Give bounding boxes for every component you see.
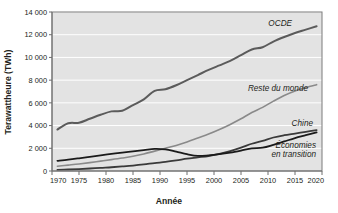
series-label-3: Économies <box>275 140 316 150</box>
x-axis-title: Année <box>156 196 182 206</box>
line-chart: 02 0004 0006 0008 00010 00012 00014 000 … <box>0 0 338 213</box>
y-tick-label: 0 <box>43 167 47 176</box>
y-tick-label: 2 000 <box>29 144 48 153</box>
y-tick-label: 6 000 <box>29 99 48 108</box>
series-label-4: en transition <box>271 150 316 159</box>
x-tick-label: 1975 <box>71 176 87 185</box>
y-tick-label: 14 000 <box>24 8 47 17</box>
series-label-2: Chine <box>292 119 314 128</box>
x-tick-label: 1995 <box>179 176 195 185</box>
x-tick-label: 1970 <box>50 176 66 185</box>
y-tick-label: 8 000 <box>29 76 48 85</box>
y-tick-label: 10 000 <box>24 53 47 62</box>
x-tick-label: 2010 <box>260 176 276 185</box>
series-label-1: Reste du monde <box>248 84 309 93</box>
chart-container: 02 0004 0006 0008 00010 00012 00014 000 … <box>0 0 338 213</box>
x-tick-label: 2005 <box>233 176 249 185</box>
series-label-0: OCDE <box>268 19 292 28</box>
x-tick-label: 1980 <box>98 176 114 185</box>
y-tick-label: 12 000 <box>24 30 47 39</box>
x-tick-label: 2020 <box>308 176 324 185</box>
x-tick-label: 2015 <box>287 176 303 185</box>
x-tick-label: 2000 <box>206 176 222 185</box>
y-tick-label: 4 000 <box>29 121 48 130</box>
y-axis-title: Terawattheure (TWh) <box>3 49 13 134</box>
y-axis: 02 0004 0006 0008 00010 00012 00014 000 <box>24 8 52 176</box>
x-tick-label: 1990 <box>152 176 168 185</box>
x-tick-label: 1985 <box>125 176 141 185</box>
x-axis: 1970197519801985199019952000200520102015… <box>50 171 324 185</box>
